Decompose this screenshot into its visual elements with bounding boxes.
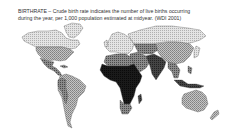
region-greenland [64,23,83,38]
region-philippines [188,66,192,74]
region-russia [128,26,206,44]
region-indonesia [174,80,204,88]
world-birthrate-map [0,0,232,135]
region-japan [194,46,200,58]
region-new-zealand [210,110,219,120]
region-uk [104,40,108,47]
region-southeast-asia [168,62,180,78]
region-sub-saharan-africa [100,64,142,104]
region-madagascar [138,94,142,104]
region-australia [182,90,208,112]
region-caribbean [60,65,68,68]
region-north-africa [104,54,134,66]
